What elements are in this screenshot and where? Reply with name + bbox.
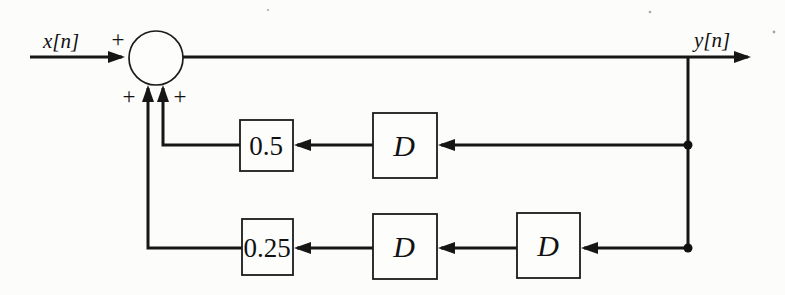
delay-label-path1: D (392, 129, 415, 162)
block-diagram-page: x[n] y[n] + + + 0.5 D 0.25 D D (0, 0, 785, 295)
junction-dot-feedback1 (684, 141, 693, 150)
feedback-system-diagram: x[n] y[n] + + + 0.5 D 0.25 D D (0, 0, 785, 295)
plus-sign-top-left: + (112, 27, 125, 52)
summing-junction-circle (129, 31, 183, 85)
delay-label-path2-first: D (536, 229, 559, 262)
gain-label-0point25: 0.25 (243, 233, 290, 263)
scan-speck (267, 9, 269, 11)
plus-sign-bottom-left: + (123, 84, 136, 109)
plus-sign-bottom-right: + (174, 84, 187, 109)
input-label: x[n] (42, 29, 79, 53)
scan-speck (649, 11, 652, 14)
gain-label-0point5: 0.5 (249, 131, 283, 161)
output-label: y[n] (692, 28, 730, 52)
junction-dot-feedback2 (684, 244, 693, 253)
scan-speck (773, 31, 776, 34)
delay-label-path2-second: D (392, 230, 415, 263)
